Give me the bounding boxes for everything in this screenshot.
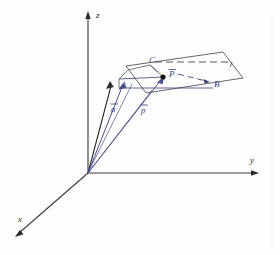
axes-group: z y x xyxy=(15,10,259,237)
edge-a-guide-upper xyxy=(119,77,163,79)
vector-to-c-line xyxy=(88,84,132,173)
vector-a[interactable] xyxy=(88,83,126,174)
plane-group xyxy=(126,52,243,93)
vector-label-p: p xyxy=(140,105,146,115)
edge-c-slant xyxy=(150,65,158,72)
y-axis-arrowhead xyxy=(251,170,259,175)
edge-to-c xyxy=(128,65,150,70)
dashed-line-right xyxy=(229,62,232,70)
vector-a-line xyxy=(88,87,122,173)
point-markers-group xyxy=(160,74,165,79)
diagram-canvas: z y x xyxy=(0,0,280,255)
vector-to-c xyxy=(88,84,132,173)
edge-left-slant xyxy=(119,70,128,79)
point-label-p: P xyxy=(168,69,175,79)
vector-label-p-group: p xyxy=(140,105,148,115)
vector-plane-diagram: z y x xyxy=(0,0,280,255)
y-axis xyxy=(88,170,259,175)
point-p-marker xyxy=(160,74,165,79)
dashed-lines-group xyxy=(155,62,232,84)
point-label-b: B xyxy=(214,79,220,89)
x-axis-arrowhead xyxy=(15,230,24,237)
z-axis xyxy=(85,11,90,173)
dashed-line-p-to-b xyxy=(178,74,206,81)
x-axis-line xyxy=(19,173,88,233)
vector-to-plane-corner-arrowhead xyxy=(106,81,114,89)
vector-to-plane-corner-line xyxy=(88,86,111,173)
plane-parallelogram xyxy=(126,52,243,93)
vector-to-plane-corner xyxy=(88,81,114,173)
vector-to-b xyxy=(88,90,152,173)
z-axis-label: z xyxy=(95,10,100,20)
x-axis xyxy=(15,173,88,237)
vectors-group xyxy=(88,77,164,174)
point-label-a: A xyxy=(120,80,127,90)
vector-label-a: a xyxy=(111,104,116,114)
x-axis-label: x xyxy=(17,214,22,224)
vector-label-a-group: a xyxy=(111,104,119,114)
z-axis-arrowhead xyxy=(85,11,90,19)
y-axis-label: y xyxy=(249,155,254,165)
point-label-c: C xyxy=(149,55,156,65)
vector-to-b-line xyxy=(88,90,152,173)
point-label-p-group: P xyxy=(168,69,176,79)
